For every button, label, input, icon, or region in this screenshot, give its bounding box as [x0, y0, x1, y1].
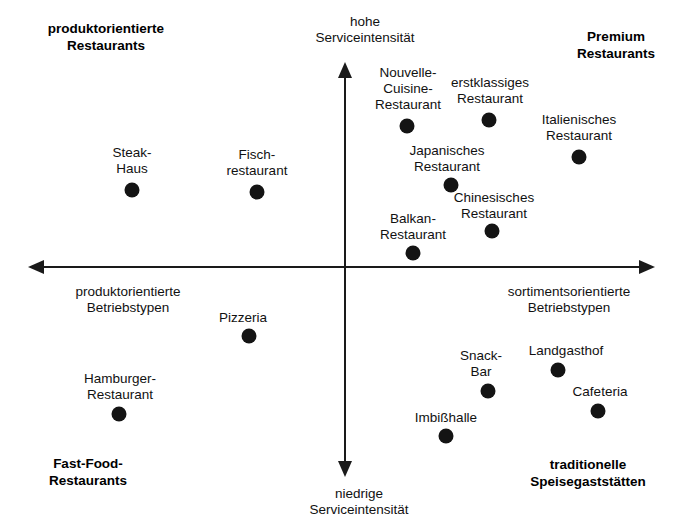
point-label: Japanisches Restaurant [409, 143, 484, 175]
point-label: Nouvelle- Cuisine- Restaurant [375, 65, 441, 113]
quadrant-label-top-left: produktorientierte Restaurants [48, 20, 164, 54]
point-label: Hamburger- Restaurant [84, 371, 156, 403]
point-label: Italienisches Restaurant [542, 112, 616, 144]
horizontal-axis-line [42, 266, 641, 268]
data-point-dot [400, 119, 415, 134]
point-label: erstklassiges Restaurant [451, 75, 529, 107]
data-point-dot [406, 246, 421, 261]
point-label: Imbißhalle [415, 410, 477, 426]
quadrant-label-bottom-left: Fast-Food- Restaurants [49, 455, 127, 489]
data-point-dot [482, 113, 497, 128]
data-point-dot [572, 150, 587, 165]
data-point-dot [439, 429, 454, 444]
vertical-axis-line [344, 76, 346, 463]
axis-caption-top: hohe Serviceintensität [315, 14, 414, 46]
data-point-dot [242, 329, 257, 344]
quadrant-label-bottom-right: traditionelle Speisegaststätten [530, 456, 646, 490]
data-point-dot [250, 185, 265, 200]
point-label: Balkan- Restaurant [380, 211, 446, 243]
axis-caption-bottom: niedrige Serviceintensität [309, 486, 408, 518]
point-label: Chinesisches Restaurant [454, 190, 534, 222]
point-label: Fisch- restaurant [227, 147, 288, 179]
vertical-axis-bottom-arrow-icon [338, 461, 352, 477]
point-label: Cafeteria [573, 384, 628, 400]
data-point-dot [551, 363, 566, 378]
quadrant-label-top-right: Premium Restaurants [577, 28, 655, 62]
axis-caption-right: sortimentsorientierte Betriebstypen [508, 284, 630, 316]
point-label: Pizzeria [219, 310, 267, 326]
data-point-dot [112, 407, 127, 422]
axis-caption-left: produktorientierte Betriebstypen [75, 284, 180, 316]
vertical-axis-top-arrow-icon [338, 62, 352, 78]
horizontal-axis-left-arrow-icon [28, 260, 44, 274]
horizontal-axis-right-arrow-icon [639, 260, 655, 274]
data-point-dot [591, 404, 606, 419]
data-point-dot [481, 384, 496, 399]
point-label: Landgasthof [529, 343, 603, 359]
point-label: Steak- Haus [112, 145, 151, 177]
point-label: Snack- Bar [460, 348, 502, 380]
restaurant-positioning-matrix: hohe Serviceintensität niedrige Servicei… [0, 0, 678, 523]
data-point-dot [485, 224, 500, 239]
data-point-dot [125, 183, 140, 198]
